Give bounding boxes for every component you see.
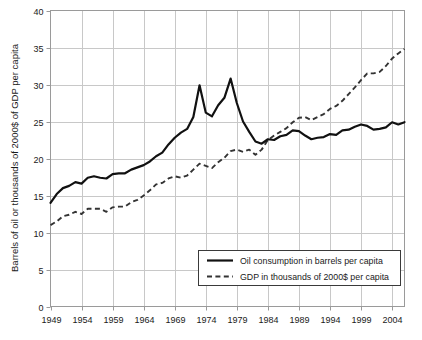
chart-legend: Oil consumption in barrels per capita GD… bbox=[199, 251, 401, 286]
y-tick-label: 35 bbox=[33, 44, 43, 54]
x-tick-label: 1964 bbox=[134, 315, 154, 325]
x-tick-label: 1954 bbox=[72, 315, 92, 325]
x-tick-label: 1984 bbox=[258, 315, 278, 325]
line-chart: 0510152025303540 19491954195919641969197… bbox=[0, 0, 422, 340]
y-tick-label: 10 bbox=[33, 229, 43, 239]
x-tick-label: 1959 bbox=[103, 315, 123, 325]
x-tick-label: 1949 bbox=[41, 315, 61, 325]
x-tick-label: 1974 bbox=[196, 315, 216, 325]
y-tick-label: 0 bbox=[38, 303, 43, 313]
x-tick-label: 1994 bbox=[320, 315, 340, 325]
chart-background bbox=[0, 0, 422, 340]
legend-label-oil: Oil consumption in barrels per capita bbox=[240, 256, 383, 266]
y-axis-title: Barrels of oil or thousands of 2000$ of … bbox=[9, 43, 20, 272]
x-tick-label: 1989 bbox=[289, 315, 309, 325]
chart-figure: 0510152025303540 19491954195919641969197… bbox=[0, 0, 422, 340]
y-tick-label: 25 bbox=[33, 118, 43, 128]
x-tick-label: 2004 bbox=[382, 315, 402, 325]
x-tick-label: 1979 bbox=[227, 315, 247, 325]
x-tick-label: 1999 bbox=[351, 315, 371, 325]
y-tick-label: 20 bbox=[33, 155, 43, 165]
y-tick-label: 15 bbox=[33, 192, 43, 202]
y-tick-label: 5 bbox=[38, 266, 43, 276]
x-tick-label: 1969 bbox=[165, 315, 185, 325]
legend-label-gdp: GDP in thousands of 2000$ per capita bbox=[240, 272, 389, 282]
y-tick-label: 30 bbox=[33, 81, 43, 91]
y-tick-label: 40 bbox=[33, 7, 43, 17]
